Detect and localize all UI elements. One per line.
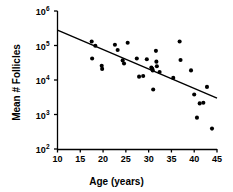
x-axis-title: Age (years) bbox=[0, 176, 233, 187]
data-point bbox=[113, 43, 117, 47]
data-point bbox=[151, 68, 155, 72]
data-point bbox=[151, 87, 155, 91]
x-tick-label: 40 bbox=[184, 154, 204, 164]
data-point bbox=[171, 76, 175, 80]
y-tick-label: 103 bbox=[24, 109, 50, 121]
data-point bbox=[126, 41, 130, 45]
y-tick-label: 104 bbox=[24, 74, 50, 86]
data-point bbox=[178, 40, 182, 44]
y-axis-title: Mean # Follicles bbox=[11, 23, 22, 143]
data-point bbox=[145, 57, 149, 61]
data-point bbox=[137, 75, 141, 79]
data-point bbox=[135, 56, 139, 60]
x-tick-label: 20 bbox=[93, 154, 113, 164]
data-point bbox=[195, 116, 199, 120]
data-point bbox=[155, 64, 159, 68]
data-point bbox=[93, 44, 97, 48]
axis-lines bbox=[57, 11, 217, 150]
data-point bbox=[210, 127, 214, 131]
y-tick-label: 102 bbox=[24, 143, 50, 155]
x-tick-label: 25 bbox=[116, 154, 136, 164]
data-point bbox=[154, 60, 158, 64]
data-point bbox=[178, 58, 182, 62]
x-tick-label: 30 bbox=[139, 154, 159, 164]
data-point bbox=[192, 92, 196, 96]
y-tick-label: 106 bbox=[24, 5, 50, 17]
data-point bbox=[198, 101, 202, 105]
x-tick-label: 10 bbox=[48, 154, 68, 164]
scatter-plot-figure: Mean # Follicles Age (years) 10152025303… bbox=[0, 0, 233, 192]
data-point bbox=[141, 74, 145, 78]
x-tick-label: 15 bbox=[70, 154, 90, 164]
data-point bbox=[201, 101, 205, 105]
data-point bbox=[122, 61, 126, 65]
regression-line bbox=[58, 30, 218, 98]
x-tick-label: 45 bbox=[207, 154, 227, 164]
trend-line bbox=[58, 30, 218, 98]
data-point bbox=[189, 68, 193, 72]
data-point bbox=[100, 67, 104, 71]
y-tick-label: 105 bbox=[24, 40, 50, 52]
data-points bbox=[90, 40, 214, 131]
data-point bbox=[90, 56, 94, 60]
data-point bbox=[90, 40, 94, 44]
x-tick-label: 35 bbox=[161, 154, 181, 164]
data-point bbox=[158, 70, 162, 74]
data-point bbox=[154, 49, 158, 53]
data-point bbox=[205, 85, 209, 89]
data-point bbox=[116, 48, 120, 52]
